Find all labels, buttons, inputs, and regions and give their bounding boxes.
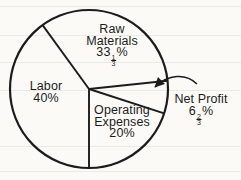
labor-percent: 40% [33, 91, 58, 105]
segment-label-labor: Labor 40% [30, 81, 62, 104]
wedge-boundary-net-profit [89, 81, 168, 89]
segment-label-operating-expenses: Operating Expenses 20% [94, 105, 150, 140]
net-profit-pointer-arrow-icon [155, 76, 197, 87]
segment-label-raw-materials: Raw Materials 3313% [86, 24, 138, 66]
segment-label-net-profit: Net Profit 623% [174, 94, 227, 125]
net-profit-percent: 623% [189, 104, 213, 118]
operating-expenses-percent: 20% [109, 126, 134, 140]
one-third-fraction: 13 [111, 55, 116, 66]
pie-chart-figure: Raw Materials 3313% Labor 40% Operating … [0, 0, 241, 180]
raw-materials-percent: 3313% [96, 45, 127, 59]
